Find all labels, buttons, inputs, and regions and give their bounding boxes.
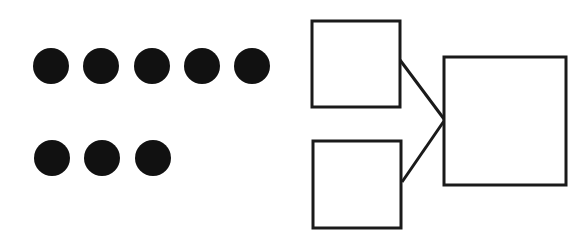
connector-line-2: [402, 121, 444, 182]
bottom-addend-box[interactable]: [313, 141, 401, 228]
dot-row1-5: [234, 48, 270, 84]
connector-lines: [400, 60, 444, 182]
dot-row1-4: [184, 48, 220, 84]
dot-row1-2: [83, 48, 119, 84]
answer-boxes: [312, 21, 566, 228]
connector-line-1: [400, 60, 444, 119]
dot-row1-3: [134, 48, 170, 84]
dot-row2-3: [135, 140, 171, 176]
top-addend-box[interactable]: [312, 21, 400, 107]
number-bond-diagram: [0, 0, 585, 245]
dot-row2-2: [84, 140, 120, 176]
dot-row2-1: [34, 140, 70, 176]
counting-dots: [33, 48, 270, 176]
dot-row1-1: [33, 48, 69, 84]
sum-box[interactable]: [444, 57, 566, 185]
